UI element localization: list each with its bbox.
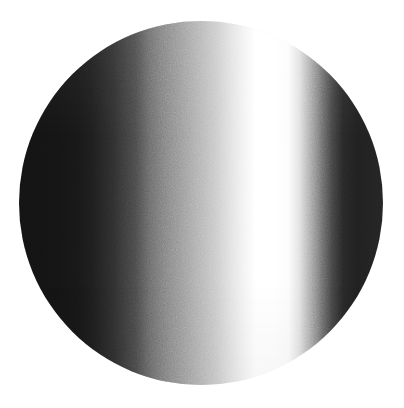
gradient-disc	[19, 21, 383, 385]
gradient-fill-layer	[19, 21, 383, 385]
figure-canvas	[0, 0, 404, 408]
